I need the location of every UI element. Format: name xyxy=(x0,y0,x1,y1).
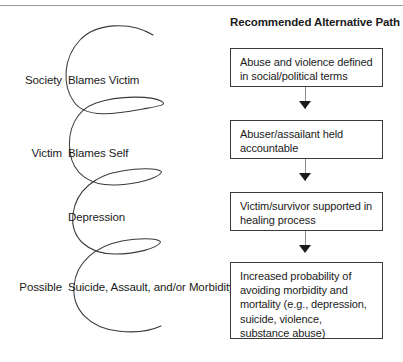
spiral-stage-outcome: Suicide, Assault, and/or Morbidity xyxy=(68,280,235,295)
spiral-stage-outcome: Depression xyxy=(68,210,125,225)
spiral-curve-icon xyxy=(0,10,215,360)
alternative-path-heading: Recommended Alternative Path xyxy=(230,16,400,28)
path-step-box: Abuser/assailant held accountable xyxy=(230,120,383,159)
spiral-stage-actor: Society xyxy=(25,73,62,88)
spiral-stage-outcome: Blames Self xyxy=(68,146,128,161)
alternative-path-panel: Recommended Alternative Path Abuse and v… xyxy=(228,0,403,362)
down-arrow-icon xyxy=(299,173,311,181)
down-arrow-icon xyxy=(299,245,311,253)
path-step-box: Victim/survivor supported in healing pro… xyxy=(230,192,383,231)
path-step-box: Increased probability of avoiding morbid… xyxy=(230,262,383,339)
down-arrow-icon xyxy=(299,101,311,109)
spiral-stage-actor: Possible xyxy=(19,280,62,295)
figure-downward-spiral-vs-alternative-path: Society Blames Victim Victim Blames Self… xyxy=(0,0,403,362)
spiral-stage-outcome: Blames Victim xyxy=(68,73,139,88)
path-step-box: Abuse and violence defined in social/pol… xyxy=(230,48,383,87)
downward-spiral-panel: Society Blames Victim Victim Blames Self… xyxy=(0,10,215,360)
spiral-stage-actor: Victim xyxy=(32,146,63,161)
